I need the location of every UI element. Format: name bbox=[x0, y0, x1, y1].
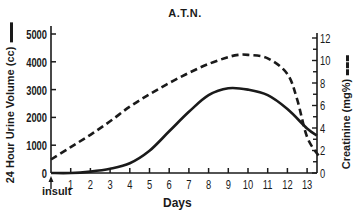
x-tick-label: 5 bbox=[147, 178, 152, 191]
x-tick-label: 9 bbox=[226, 178, 231, 191]
y-axis-right-label: Creatinine (mg%) bbox=[340, 55, 352, 169]
creatinine-line bbox=[51, 55, 319, 160]
x-tick-label: 8 bbox=[206, 178, 211, 191]
urine-volume-line bbox=[51, 88, 317, 173]
axes: 0100020003000400050000246810121234567891… bbox=[26, 26, 330, 191]
y-right-tick-label: 12 bbox=[320, 32, 330, 45]
y-right-tick-label: 8 bbox=[320, 77, 325, 90]
y-right-tick-label: 6 bbox=[320, 99, 325, 112]
x-tick-label: 6 bbox=[167, 178, 172, 191]
y-right-tick-label: 0 bbox=[320, 167, 325, 180]
y-left-tick-label: 3000 bbox=[26, 83, 47, 96]
y-left-tick-label: 1000 bbox=[26, 139, 47, 152]
legend-solid-line-icon bbox=[10, 23, 13, 43]
x-tick-label: 13 bbox=[302, 178, 312, 191]
x-tick-label: 3 bbox=[107, 178, 112, 191]
x-tick-label: 11 bbox=[263, 178, 273, 191]
y-right-tick-label: 2 bbox=[320, 144, 325, 157]
y-left-tick-label: 0 bbox=[42, 167, 47, 180]
y-axis-left-label-text: 24 Hour Urine Volume (cc) bbox=[4, 47, 16, 184]
y-left-tick-label: 4000 bbox=[26, 56, 47, 69]
series-lines bbox=[51, 55, 319, 174]
y-axis-right-label-text: Creatinine (mg%) bbox=[340, 79, 352, 169]
x-tick-label: 2 bbox=[88, 178, 93, 191]
y-right-tick-label: 4 bbox=[320, 122, 325, 135]
x-tick-label: 12 bbox=[282, 178, 292, 191]
x-tick-label: 4 bbox=[127, 178, 132, 191]
legend-dashed-line-icon bbox=[346, 55, 349, 75]
y-left-tick-label: 2000 bbox=[26, 111, 47, 124]
x-axis-label: Days bbox=[163, 196, 192, 210]
insult-arrowhead-icon bbox=[49, 176, 54, 182]
y-left-tick-label: 5000 bbox=[26, 28, 47, 41]
x-tick-label: 7 bbox=[186, 178, 191, 191]
y-axis-left-label: 24 Hour Urine Volume (cc) bbox=[4, 23, 16, 184]
insult-annotation: insult bbox=[42, 185, 71, 197]
chart-title: A.T.N. bbox=[160, 7, 210, 19]
x-tick-label: 10 bbox=[243, 178, 253, 191]
y-right-tick-label: 10 bbox=[320, 54, 330, 67]
